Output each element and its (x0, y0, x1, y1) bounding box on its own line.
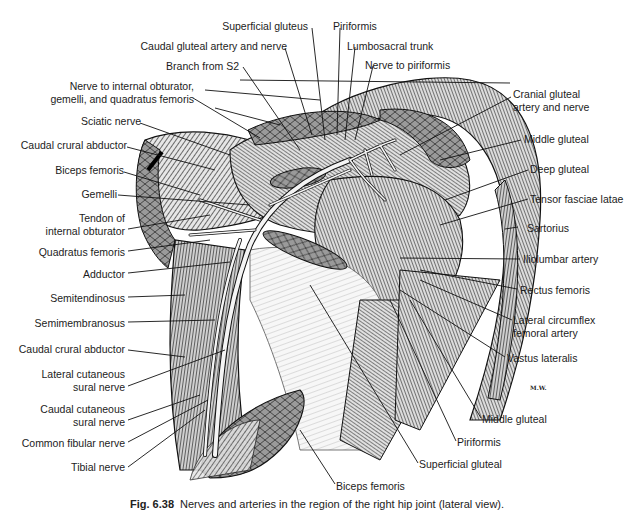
label-text: Piriformis (333, 20, 377, 33)
label-piriformis-bottom: Piriformis (457, 436, 501, 449)
label-branch-from-s2: Branch from S2 (166, 60, 239, 73)
figure-caption: Fig. 6.38Nerves and arteries in the regi… (130, 498, 504, 510)
label-common-fibular-nerve: Common fibular nerve (22, 437, 125, 450)
label-text: Vastus lateralis (507, 352, 577, 365)
label-caudal-crural-abductor-2: Caudal crural abductor (19, 343, 125, 356)
label-middle-gluteal-1: Middle gluteal (524, 133, 589, 146)
label-caudal-gluteal-artery-nerve: Caudal gluteal artery and nerve (140, 40, 287, 53)
label-text: internal obturator (46, 225, 125, 238)
label-text: Adductor (83, 268, 125, 281)
label-text: Lumbosacral trunk (347, 40, 433, 53)
label-text: Superficial gluteal (419, 458, 502, 471)
label-text: Caudal crural abductor (21, 139, 127, 152)
label-deep-gluteal: Deep gluteal (530, 163, 589, 176)
label-text: femoral artery (513, 327, 595, 340)
label-text: Semimembranosus (35, 317, 125, 330)
label-nerve-internal-obturator: Nerve to internal obturator, gemelli, an… (50, 80, 194, 105)
label-biceps-femoris-1: Biceps femoris (55, 164, 124, 177)
artist-signature: M.W. (530, 384, 547, 391)
label-text: Caudal cutaneous (40, 403, 125, 416)
label-text: Middle gluteal (482, 413, 547, 426)
label-tibial-nerve: Tibial nerve (71, 461, 125, 474)
label-sartorius: Sartorius (527, 222, 569, 235)
label-text: Caudal gluteal artery and nerve (140, 40, 287, 53)
label-semitendinosus: Semitendinosus (50, 292, 125, 305)
label-text: Tensor fasciae latae (530, 193, 623, 206)
label-adductor: Adductor (83, 268, 125, 281)
label-text: artery and nerve (513, 101, 589, 114)
label-text: Piriformis (457, 436, 501, 449)
label-rectus-femoris: Rectus femoris (520, 284, 590, 297)
label-vastus-lateralis: Vastus lateralis (507, 352, 577, 365)
label-tensor-fasciae-latae: Tensor fasciae latae (530, 193, 623, 206)
label-text: Nerve to piriformis (365, 59, 450, 72)
label-caudal-cutaneous-sural-nerve: Caudal cutaneous sural nerve (40, 403, 125, 428)
label-text: Deep gluteal (530, 163, 589, 176)
label-text: Rectus femoris (520, 284, 590, 297)
label-text: Caudal crural abductor (19, 343, 125, 356)
label-text: Tibial nerve (71, 461, 125, 474)
label-gemelli: Gemelli (81, 188, 117, 201)
label-text: Superficial gluteus (222, 20, 308, 33)
label-text: Gemelli (81, 188, 117, 201)
label-text: Cranial gluteal (513, 88, 589, 101)
figure-number: Fig. 6.38 (130, 498, 174, 510)
label-text: Sartorius (527, 222, 569, 235)
label-cranial-gluteal-artery-nerve: Cranial gluteal artery and nerve (513, 88, 589, 113)
figure-caption-text: Nerves and arteries in the region of the… (180, 498, 504, 510)
label-text: Semitendinosus (50, 292, 125, 305)
label-text: Middle gluteal (524, 133, 589, 146)
label-text: Nerve to internal obturator, (50, 80, 194, 93)
label-text: Quadratus femoris (39, 246, 125, 259)
label-text: Branch from S2 (166, 60, 239, 73)
label-text: Lateral cutaneous (42, 368, 125, 381)
label-superficial-gluteus: Superficial gluteus (222, 20, 308, 33)
label-text: Biceps femoris (336, 480, 405, 493)
label-nerve-to-piriformis: Nerve to piriformis (365, 59, 450, 72)
label-text: Biceps femoris (55, 164, 124, 177)
label-text: Lateral circumflex (513, 314, 595, 327)
label-lateral-cutaneous-sural-nerve: Lateral cutaneous sural nerve (42, 368, 125, 393)
label-semimembranosus: Semimembranosus (35, 317, 125, 330)
label-sciatic-nerve: Sciatic nerve (81, 115, 141, 128)
label-iliolumbar-artery: Iliolumbar artery (523, 253, 598, 266)
label-piriformis-top: Piriformis (333, 20, 377, 33)
label-text: Sciatic nerve (81, 115, 141, 128)
label-quadratus-femoris: Quadratus femoris (39, 246, 125, 259)
label-caudal-crural-abductor-1: Caudal crural abductor (21, 139, 127, 152)
label-text: sural nerve (40, 416, 125, 429)
label-lumbosacral-trunk: Lumbosacral trunk (347, 40, 433, 53)
label-text: sural nerve (42, 381, 125, 394)
label-text: Iliolumbar artery (523, 253, 598, 266)
label-middle-gluteal-2: Middle gluteal (482, 413, 547, 426)
label-text: gemelli, and quadratus femoris (50, 93, 194, 106)
label-biceps-femoris-2: Biceps femoris (336, 480, 405, 493)
label-superficial-gluteal: Superficial gluteal (419, 458, 502, 471)
label-text: Tendon of (46, 212, 125, 225)
label-text: Common fibular nerve (22, 437, 125, 450)
label-lateral-circumflex-femoral-artery: Lateral circumflex femoral artery (513, 314, 595, 339)
label-tendon-internal-obturator: Tendon of internal obturator (46, 212, 125, 237)
